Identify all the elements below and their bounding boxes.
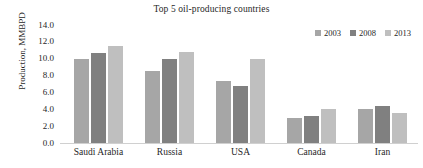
bar-groups [63, 25, 418, 143]
y-axis-tick-label: 6.0 [43, 88, 54, 97]
y-axis-tick-label: 4.0 [43, 105, 54, 114]
bar-group-saudi-arabia [63, 25, 134, 143]
bar[interactable] [358, 109, 373, 143]
x-axis-category-labels: Saudi ArabiaRussiaUSACanadaIran [63, 147, 418, 157]
bar-group-russia [134, 25, 205, 143]
bar-group-iran [347, 25, 418, 143]
bar[interactable] [321, 109, 336, 143]
bar[interactable] [216, 81, 231, 143]
bar[interactable] [179, 52, 194, 143]
y-axis-tick-label: 8.0 [43, 71, 54, 80]
bar[interactable] [162, 59, 177, 143]
bar[interactable] [375, 106, 390, 143]
bar[interactable] [145, 71, 160, 143]
bar[interactable] [233, 86, 248, 143]
chart-title: Top 5 oil-producing countries [0, 4, 423, 14]
y-axis-tick-label: 0.0 [43, 139, 54, 148]
bar[interactable] [91, 53, 106, 143]
bar[interactable] [287, 118, 302, 143]
bar[interactable] [250, 59, 265, 143]
bar-group-usa [205, 25, 276, 143]
bar[interactable] [74, 59, 89, 143]
bar-chart: Top 5 oil-producing countries Production… [0, 0, 423, 168]
y-axis-tick-label: 12.0 [38, 37, 54, 46]
x-axis-category-label: USA [205, 147, 276, 157]
bar-group-canada [276, 25, 347, 143]
x-axis-category-label: Saudi Arabia [63, 147, 134, 157]
y-axis-tick-label: 2.0 [43, 122, 54, 131]
x-axis-category-label: Iran [347, 147, 418, 157]
bar[interactable] [108, 46, 123, 143]
y-axis-tick-label: 10.0 [38, 54, 54, 63]
bar[interactable] [392, 113, 407, 143]
bar[interactable] [304, 116, 319, 143]
x-axis-line [60, 143, 418, 144]
y-axis-tick-label: 14.0 [38, 21, 54, 30]
y-axis-tick-labels: 14.012.010.08.06.04.02.00.0 [0, 25, 59, 143]
x-axis-category-label: Russia [134, 147, 205, 157]
x-axis-category-label: Canada [276, 147, 347, 157]
plot-area [63, 25, 418, 143]
